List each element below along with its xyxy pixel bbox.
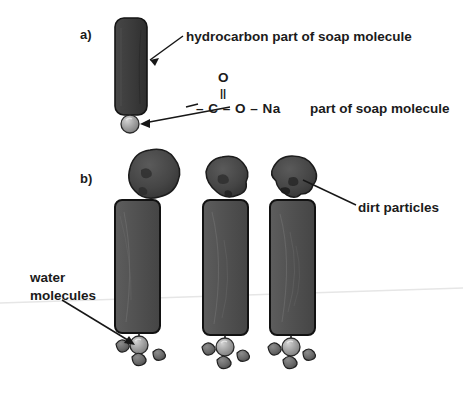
water-molecule-b3-3 <box>303 349 315 360</box>
hydrocarbon-tail-b3 <box>270 200 315 335</box>
water-molecules-label-line2: molecules <box>30 288 96 304</box>
soap-molecule-2 <box>202 200 249 369</box>
panel-b-key: b) <box>80 172 92 187</box>
formula-chain: – C – O – Na <box>196 101 281 116</box>
hydrocarbon-label: hydrocarbon part of soap molecule <box>186 29 412 45</box>
panel-a-molecule <box>115 18 147 133</box>
formula-oxygen-top: O <box>218 70 229 85</box>
hydrocarbon-tail-b2 <box>203 200 248 335</box>
dirt-particles-label: dirt particles <box>358 200 439 216</box>
panel-a-key: a) <box>80 28 92 43</box>
soap-molecule-1 <box>115 200 165 366</box>
diagram-canvas <box>0 0 463 394</box>
dirt-particle-1 <box>129 149 180 198</box>
hydrocarbon-tail-a <box>115 18 147 115</box>
figure-root: a) b) hydrocarbon part of soap molecule … <box>0 0 463 394</box>
formula-double-bond: || <box>220 87 226 99</box>
water-molecule-b1-2 <box>132 353 146 365</box>
water-molecule-b1-3 <box>153 349 165 360</box>
dirt-particle-3 <box>272 156 317 197</box>
water-molecule-b3-2 <box>283 356 297 368</box>
water-molecule-b2-3 <box>237 350 249 361</box>
water-molecule-b3-1 <box>268 343 281 355</box>
ionic-part-label: part of soap molecule <box>310 101 450 117</box>
soap-molecule-3 <box>268 200 315 369</box>
water-molecule-b2-1 <box>202 343 215 355</box>
ionic-arrow-head <box>140 119 150 128</box>
water-molecules-label-line1: water <box>30 270 65 286</box>
dirt-particles-group <box>129 149 317 198</box>
hydrocarbon-tail-b1 <box>115 200 160 333</box>
hydrocarbon-leader-line <box>150 36 183 60</box>
water-molecule-b2-2 <box>217 356 231 368</box>
